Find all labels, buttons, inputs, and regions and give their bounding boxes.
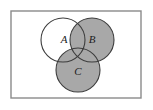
circle-b-label: B: [89, 33, 96, 45]
circle-c-label: C: [74, 65, 82, 77]
venn-diagram-figure: A B C: [0, 0, 153, 110]
venn-diagram-canvas: A B C: [0, 0, 153, 110]
circle-a-label: A: [60, 33, 68, 45]
